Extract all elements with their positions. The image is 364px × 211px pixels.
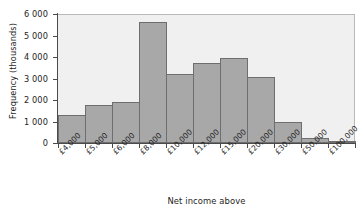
y-axis-tick-label: 5 000 <box>2 31 48 41</box>
bar-series <box>58 14 355 143</box>
x-axis-tick <box>355 144 356 148</box>
y-axis-tick-label: 1 000 <box>2 117 48 127</box>
y-axis-tick-label: 4 000 <box>2 52 48 62</box>
histogram-figure: Frequency (thousands) 01 0002 0003 0004 … <box>0 0 364 211</box>
bar <box>139 22 167 143</box>
x-axis-title: Net income above <box>58 196 355 206</box>
y-axis-tick-label: 6 000 <box>2 9 48 19</box>
y-axis-tick-label: 2 000 <box>2 95 48 105</box>
y-axis-tick-label: 3 000 <box>2 74 48 84</box>
y-axis-tick-label: 0 <box>2 138 48 148</box>
